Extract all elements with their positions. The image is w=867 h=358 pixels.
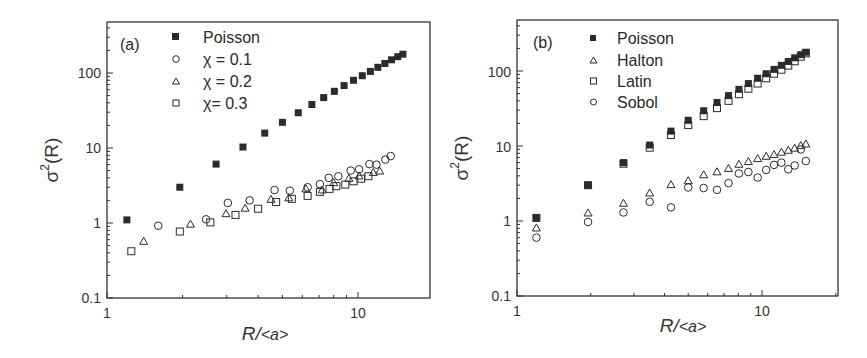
sigma: σ <box>451 168 472 180</box>
legend-marker-open-square <box>591 78 597 84</box>
y-axis-title: σ2(R) <box>448 136 472 181</box>
data-point-open-square <box>365 173 372 180</box>
x-tick-label: 1 <box>103 305 111 321</box>
data-point-open-circle <box>725 179 733 187</box>
x-tick-label: 10 <box>350 305 366 321</box>
sigma: σ <box>41 170 62 182</box>
data-point-open-triangle <box>744 158 752 165</box>
ylabel-rest: (R) <box>41 138 62 164</box>
data-point-filled-square <box>123 216 130 223</box>
data-point-filled-square <box>331 88 338 95</box>
data-point-filled-square <box>239 144 246 151</box>
data-point-filled-square <box>785 58 792 65</box>
data-point-filled-square <box>754 75 761 82</box>
data-point-filled-square <box>763 70 770 77</box>
x-axis-title: R/<a> <box>242 323 289 344</box>
data-point-open-square <box>232 211 239 218</box>
data-point-open-circle <box>713 186 721 194</box>
data-point-open-circle <box>224 199 232 207</box>
data-point-filled-square <box>350 77 357 84</box>
panel-label: (b) <box>533 34 553 51</box>
data-point-open-triangle <box>777 148 785 155</box>
data-point-filled-square <box>308 101 315 108</box>
legend-label: Halton <box>617 52 663 69</box>
svg-text:σ2(R): σ2(R) <box>448 136 472 181</box>
data-point-filled-square <box>295 109 302 116</box>
data-points <box>123 51 406 255</box>
data-point-open-triangle <box>770 151 778 158</box>
data-point-open-square <box>304 192 311 199</box>
data-point-open-circle <box>770 161 778 169</box>
data-point-open-triangle <box>667 181 675 188</box>
y-tick-label: 10 <box>495 139 511 155</box>
legend-label: Latin <box>617 73 652 90</box>
data-point-filled-square <box>778 62 785 69</box>
data-point-open-triangle <box>584 209 592 216</box>
legend-label: Sobol <box>617 94 658 111</box>
data-point-open-circle <box>646 198 654 206</box>
legend-marker-open-triangle <box>173 78 180 84</box>
data-point-open-circle <box>286 187 294 195</box>
data-point-open-triangle <box>140 237 148 244</box>
data-point-open-circle <box>802 157 810 165</box>
data-point-open-circle <box>154 222 162 230</box>
legend: Poisson χ = 0.1 χ = 0.2 χ= 0.3 <box>172 29 260 112</box>
y-tick-label: 100 <box>78 65 102 81</box>
data-point-filled-square <box>367 68 374 75</box>
data-point-filled-square <box>261 130 268 137</box>
data-point-open-square <box>128 248 135 255</box>
y-tick-label: 100 <box>488 64 512 80</box>
data-point-open-circle <box>584 218 592 226</box>
data-point-filled-square <box>646 142 653 149</box>
legend-label: Poisson <box>203 29 260 46</box>
data-point-open-triangle <box>186 220 194 227</box>
x-tick-label: 10 <box>754 303 770 319</box>
data-point-filled-square <box>341 82 348 89</box>
data-point-open-circle <box>620 209 628 217</box>
svg-text:σ2(R): σ2(R) <box>38 138 62 183</box>
panel-label: (a) <box>120 36 140 53</box>
data-point-open-triangle <box>754 155 762 162</box>
y-axis-title: σ2(R) <box>38 138 62 183</box>
data-point-open-square <box>255 205 262 212</box>
legend-marker-open-square <box>173 100 179 106</box>
data-point-open-square <box>342 181 349 188</box>
legend: Poisson Halton Latin Sobol <box>590 30 674 111</box>
data-point-open-circle <box>325 174 333 182</box>
data-point-filled-square <box>585 182 592 189</box>
y-tick-label: 1 <box>93 215 101 231</box>
data-point-open-triangle <box>735 160 743 167</box>
data-point-open-triangle <box>619 199 627 206</box>
data-point-filled-square <box>725 92 732 99</box>
data-point-open-circle <box>684 184 692 192</box>
data-point-filled-square <box>735 86 742 93</box>
panel-b: 0.1 1 10 100 1 10 (b) σ2(R) R/<a> Poisso… <box>448 20 838 336</box>
x-axis-title: R/<a> <box>660 315 707 336</box>
data-point-open-square <box>326 185 333 192</box>
data-point-open-triangle <box>222 210 230 217</box>
data-point-filled-square <box>279 119 286 126</box>
data-point-open-triangle <box>241 204 249 211</box>
legend-marker-filled-square <box>590 35 596 41</box>
data-point-open-circle <box>762 166 770 174</box>
legend-marker-filled-square <box>172 33 179 40</box>
y-tick-label: 1 <box>503 213 511 229</box>
data-point-filled-square <box>320 94 327 101</box>
y-tick-label: 0.1 <box>492 288 512 304</box>
data-point-open-circle <box>382 156 390 164</box>
data-point-open-triangle <box>762 152 770 159</box>
legend-marker-open-circle <box>173 56 180 63</box>
data-point-open-circle <box>667 204 675 212</box>
y-tick-label: 10 <box>85 140 101 156</box>
data-point-open-triangle <box>532 224 540 231</box>
data-point-open-triangle <box>713 168 721 175</box>
data-point-open-circle <box>754 174 762 182</box>
data-point-open-triangle <box>684 177 692 184</box>
legend-marker-open-circle <box>591 99 597 105</box>
figure: 0.1 1 10 100 1 10 (a) σ2(R) R/<a> Poisso… <box>0 0 867 358</box>
data-point-filled-square <box>399 51 406 58</box>
data-point-open-triangle <box>646 189 654 196</box>
data-point-open-circle <box>745 168 753 176</box>
data-point-filled-square <box>685 117 692 124</box>
ylabel-rest: (R) <box>451 136 472 162</box>
